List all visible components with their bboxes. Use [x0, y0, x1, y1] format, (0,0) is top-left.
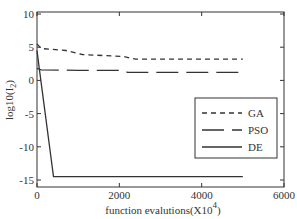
legend: GAPSODE — [195, 98, 277, 158]
legend-ga-label: GA — [248, 107, 264, 119]
series-ga-line — [37, 44, 243, 59]
y-tick-label: -5 — [25, 108, 35, 120]
x-tick-label: 0 — [34, 189, 40, 201]
x-tick-label: 4000 — [191, 189, 214, 201]
x-tick-label: 2000 — [108, 189, 131, 201]
svg-text:log10(I2): log10(I2) — [3, 80, 18, 120]
convergence-chart: 1050-5-10-15 0200040006000 log10(I2) fun… — [0, 0, 297, 219]
y-axis-ticks: 1050-5-10-15 — [19, 8, 284, 186]
legend-pso-label: PSO — [248, 124, 268, 136]
y-axis-label: log10(I2) — [3, 80, 18, 120]
y-tick-label: 0 — [29, 74, 35, 86]
legend-de-label: DE — [248, 141, 263, 153]
x-tick-label: 6000 — [273, 189, 296, 201]
y-tick-label: 10 — [23, 8, 35, 20]
y-tick-label: -15 — [19, 174, 34, 186]
y-tick-label: 5 — [29, 41, 35, 53]
series-pso-line — [37, 68, 243, 72]
y-tick-label: -10 — [19, 141, 34, 153]
x-axis-label: function evalutions(X104) — [105, 200, 221, 217]
